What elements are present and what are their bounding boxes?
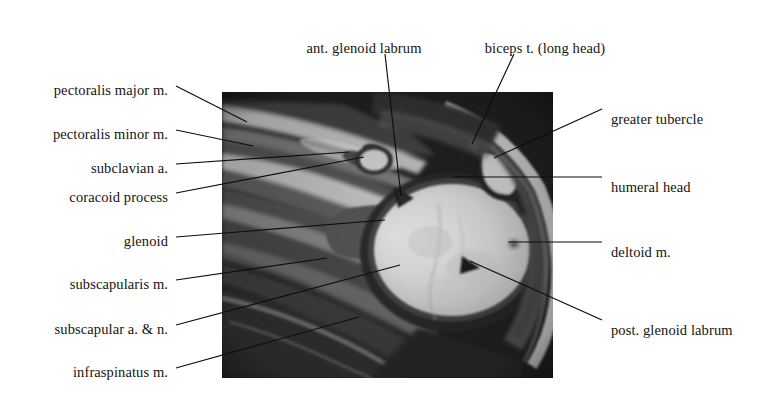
label-ant-glenoid-labrum: ant. glenoid labrum (306, 41, 421, 56)
label-glenoid: glenoid (124, 234, 168, 249)
leader-line-pectoralis-major (176, 86, 247, 122)
figure-root: pectoralis major m.pectoralis minor m.su… (0, 0, 774, 397)
leader-line-glenoid (176, 220, 385, 237)
label-subclavian-artery: subclavian a. (91, 161, 168, 176)
leader-line-pectoralis-minor (176, 130, 253, 146)
leader-line-subscapular-artery-nerve (176, 265, 400, 325)
label-coracoid-process: coracoid process (69, 190, 168, 205)
label-infraspinatus: infraspinatus m. (73, 365, 168, 380)
label-post-glenoid-labrum: post. glenoid labrum (611, 323, 733, 338)
leader-line-greater-tubercle (494, 109, 602, 158)
label-biceps-tendon-long-head: biceps t. (long head) (485, 41, 605, 56)
leader-line-ant-glenoid-labrum (385, 54, 401, 196)
label-deltoid: deltoid m. (611, 245, 671, 260)
label-subscapular-artery-nerve: subscapular a. & n. (55, 322, 168, 337)
leader-line-infraspinatus (176, 317, 359, 368)
leader-line-subscapularis (176, 258, 327, 280)
leader-line-biceps-tendon-long-head (472, 54, 514, 144)
label-greater-tubercle: greater tubercle (611, 112, 703, 127)
leader-line-subclavian-artery (176, 152, 349, 164)
label-subscapularis: subscapularis m. (70, 277, 168, 292)
leader-line-post-glenoid-labrum (470, 261, 602, 320)
label-pectoralis-major: pectoralis major m. (54, 83, 168, 98)
label-humeral-head: humeral head (611, 180, 691, 195)
label-pectoralis-minor: pectoralis minor m. (53, 127, 168, 142)
